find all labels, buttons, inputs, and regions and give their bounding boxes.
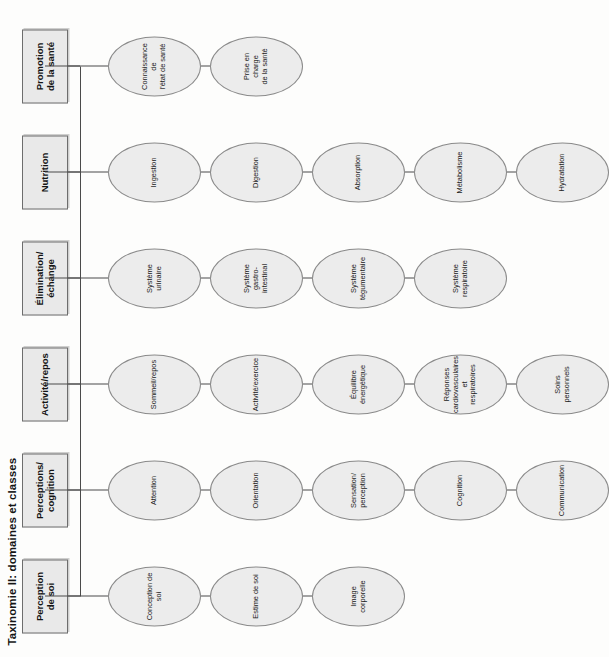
class-node[interactable]: Réponsescardiovasculaires etrespiratoire… xyxy=(414,354,507,414)
class-connector xyxy=(405,277,414,278)
label-line: Digestion xyxy=(252,157,261,188)
label-line: Cognition xyxy=(456,474,465,505)
class-node[interactable]: Sommeil/repos xyxy=(108,354,201,414)
class-connector xyxy=(201,277,210,278)
label-line: gastro-intestinal xyxy=(252,254,270,302)
class-node[interactable]: Systèmeurinaire xyxy=(108,248,201,308)
label-line: Connaissance de xyxy=(141,42,159,90)
class-node[interactable]: Hydratation xyxy=(516,142,609,202)
label-line: Soins personnels xyxy=(554,360,572,408)
label-line: énergétique xyxy=(359,364,368,403)
label-line: Ingestion xyxy=(150,157,159,187)
label-line: Perception xyxy=(34,571,45,620)
label-line: Absorption xyxy=(354,154,363,189)
label-line: Promotion xyxy=(34,42,45,90)
class-node[interactable]: Cognition xyxy=(414,460,507,520)
class-connector xyxy=(303,171,312,172)
class-connector xyxy=(303,489,312,490)
class-connector xyxy=(201,65,210,66)
class-node[interactable]: Orientation xyxy=(210,460,303,520)
class-connector xyxy=(303,383,312,384)
class-node[interactable]: Attention xyxy=(108,460,201,520)
class-connector xyxy=(507,171,516,172)
label-line: respiratoires xyxy=(469,364,478,405)
class-connector xyxy=(303,595,312,596)
class-node[interactable]: Digestion xyxy=(210,142,303,202)
label-line: Communication xyxy=(558,464,567,515)
class-node[interactable]: Sensation/perception xyxy=(312,460,405,520)
label-line: Perceptions/ xyxy=(34,461,45,518)
tree-spine xyxy=(80,66,81,596)
class-connector xyxy=(201,489,210,490)
label-line: Métabolisme xyxy=(456,151,465,193)
label-line: respiratoire xyxy=(461,260,470,297)
label-line: Attention xyxy=(150,475,159,504)
class-node[interactable]: Activité/exercice xyxy=(210,354,303,414)
class-node[interactable]: Équilibreénergétique xyxy=(312,354,405,414)
class-connector xyxy=(405,383,414,384)
label-line: l'état de santé xyxy=(159,43,168,89)
label-line: cardiovasculaires et xyxy=(452,355,470,412)
class-node[interactable]: Estime de soi xyxy=(210,566,303,626)
label-line: tégumentaire xyxy=(359,256,368,299)
label-line: urinaire xyxy=(155,266,164,291)
class-connector xyxy=(201,595,210,596)
class-connector xyxy=(405,489,414,490)
label-line: de la santé xyxy=(261,48,270,84)
label-line: Élimination/ xyxy=(34,251,45,305)
class-node[interactable]: Conception de soi xyxy=(108,566,201,626)
class-node[interactable]: Métabolisme xyxy=(414,142,507,202)
label-line: Hydratation xyxy=(558,153,567,191)
page-title: Taxinomie II: domaines et classes xyxy=(6,457,18,645)
class-node[interactable]: Absorption xyxy=(312,142,405,202)
class-node[interactable]: Connaissance del'état de santé xyxy=(108,36,201,96)
label-line: Prise en charge xyxy=(243,42,261,90)
label-line: perception xyxy=(359,473,368,508)
class-node[interactable]: Systèmerespiratoire xyxy=(414,248,507,308)
label-line: Conception de soi xyxy=(146,572,164,620)
label-line: Image corporelle xyxy=(350,572,368,620)
label-line: Estime de soi xyxy=(252,574,261,618)
label-line: Orientation xyxy=(252,472,261,508)
class-connector xyxy=(45,171,108,172)
class-connector xyxy=(507,489,516,490)
label-line: Activité/exercice xyxy=(252,357,261,410)
label-line: Sommeil/repos xyxy=(150,359,159,408)
class-connector xyxy=(45,595,108,596)
class-node[interactable]: Image corporelle xyxy=(312,566,405,626)
class-connector xyxy=(507,383,516,384)
class-node[interactable]: Ingestion xyxy=(108,142,201,202)
class-connector xyxy=(45,65,108,66)
class-connector xyxy=(405,171,414,172)
class-node[interactable]: Prise en chargede la santé xyxy=(210,36,303,96)
class-connector xyxy=(45,383,108,384)
class-node[interactable]: Communication xyxy=(516,460,609,520)
class-connector xyxy=(45,277,108,278)
class-connector xyxy=(303,277,312,278)
class-connector xyxy=(201,171,210,172)
class-node[interactable]: Systèmetégumentaire xyxy=(312,248,405,308)
class-connector xyxy=(201,383,210,384)
class-connector xyxy=(45,489,108,490)
class-node[interactable]: Soins personnels xyxy=(516,354,609,414)
class-node[interactable]: Systèmegastro-intestinal xyxy=(210,248,303,308)
